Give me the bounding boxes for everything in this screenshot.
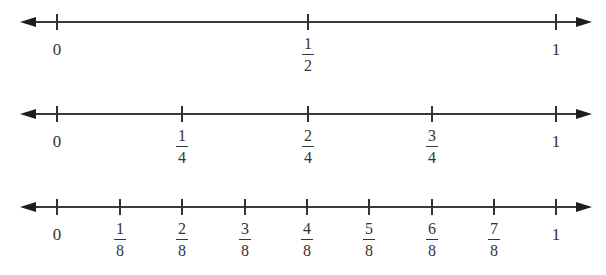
fraction-bar bbox=[176, 146, 188, 147]
denominator: 4 bbox=[428, 150, 436, 166]
numerator: 5 bbox=[365, 221, 373, 237]
tick-mark bbox=[306, 199, 308, 215]
denominator: 8 bbox=[116, 243, 124, 259]
fraction-label: 48 bbox=[301, 221, 313, 259]
denominator: 4 bbox=[304, 150, 312, 166]
fraction-label: 68 bbox=[426, 221, 438, 259]
tick-mark bbox=[493, 199, 495, 215]
tick-mark bbox=[307, 14, 309, 30]
numerator: 7 bbox=[490, 221, 498, 237]
numerator: 3 bbox=[241, 221, 249, 237]
number-line-fourths bbox=[24, 113, 588, 115]
denominator: 8 bbox=[303, 243, 311, 259]
fraction-label: 24 bbox=[302, 128, 314, 166]
fraction-label: 38 bbox=[239, 221, 251, 259]
numerator: 6 bbox=[428, 221, 436, 237]
fraction-label: 78 bbox=[488, 221, 500, 259]
fraction-bar bbox=[114, 239, 126, 240]
tick-label: 1 bbox=[552, 133, 561, 150]
denominator: 8 bbox=[178, 243, 186, 259]
fraction-bar bbox=[426, 239, 438, 240]
tick-label: 1 bbox=[552, 226, 561, 243]
tick-label: 0 bbox=[53, 133, 62, 150]
number-line-halves bbox=[24, 21, 588, 23]
fraction-bar bbox=[239, 239, 251, 240]
fraction-label: 28 bbox=[176, 221, 188, 259]
tick-mark bbox=[244, 199, 246, 215]
numerator: 1 bbox=[304, 36, 312, 52]
denominator: 8 bbox=[241, 243, 249, 259]
numerator: 2 bbox=[178, 221, 186, 237]
denominator: 8 bbox=[428, 243, 436, 259]
tick-mark bbox=[431, 106, 433, 122]
arrow-left-icon bbox=[20, 202, 36, 212]
fraction-label: 12 bbox=[302, 36, 314, 74]
tick-mark bbox=[181, 106, 183, 122]
tick-mark bbox=[56, 14, 58, 30]
numerator: 1 bbox=[116, 221, 124, 237]
tick-mark bbox=[555, 106, 557, 122]
tick-mark bbox=[56, 106, 58, 122]
denominator: 2 bbox=[304, 58, 312, 74]
fraction-bar bbox=[176, 239, 188, 240]
fraction-bar bbox=[302, 54, 314, 55]
tick-label: 1 bbox=[552, 41, 561, 58]
arrow-left-icon bbox=[20, 17, 36, 27]
denominator: 4 bbox=[178, 150, 186, 166]
fraction-bar bbox=[426, 146, 438, 147]
numerator: 1 bbox=[178, 128, 186, 144]
arrow-right-icon bbox=[576, 109, 592, 119]
numerator: 4 bbox=[303, 221, 311, 237]
numerator: 3 bbox=[428, 128, 436, 144]
denominator: 8 bbox=[365, 243, 373, 259]
fraction-bar bbox=[301, 239, 313, 240]
fraction-bar bbox=[488, 239, 500, 240]
fraction-label: 14 bbox=[176, 128, 188, 166]
arrow-right-icon bbox=[576, 202, 592, 212]
tick-mark bbox=[307, 106, 309, 122]
arrow-left-icon bbox=[20, 109, 36, 119]
denominator: 8 bbox=[490, 243, 498, 259]
arrow-right-icon bbox=[576, 17, 592, 27]
tick-label: 0 bbox=[53, 41, 62, 58]
tick-mark bbox=[555, 14, 557, 30]
tick-mark bbox=[368, 199, 370, 215]
fraction-bar bbox=[363, 239, 375, 240]
tick-mark bbox=[181, 199, 183, 215]
fraction-label: 58 bbox=[363, 221, 375, 259]
tick-mark bbox=[56, 199, 58, 215]
tick-mark bbox=[119, 199, 121, 215]
fraction-label: 34 bbox=[426, 128, 438, 166]
tick-mark bbox=[555, 199, 557, 215]
tick-label: 0 bbox=[53, 226, 62, 243]
fraction-label: 18 bbox=[114, 221, 126, 259]
fraction-bar bbox=[302, 146, 314, 147]
numerator: 2 bbox=[304, 128, 312, 144]
tick-mark bbox=[431, 199, 433, 215]
